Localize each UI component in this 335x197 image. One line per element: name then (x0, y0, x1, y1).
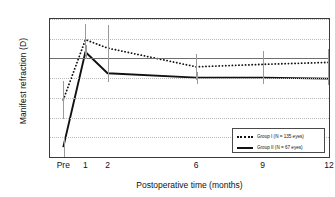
solid-line-marker-icon (237, 144, 253, 151)
error-bar (64, 137, 65, 157)
legend-label-group-2: Group II (N = 67 eyes) (257, 144, 303, 151)
legend-entry-group-1: Group I (N = 135 eyes) (237, 132, 321, 141)
legend-label-group-1: Group I (N = 135 eyes) (257, 133, 304, 140)
x-axis-tick-label: 2 (105, 160, 110, 170)
error-bar (263, 72, 264, 84)
legend-entry-group-2: Group II (N = 67 eyes) (237, 143, 321, 152)
x-axis-tick-label: Pre (57, 160, 70, 170)
chart-legend: Group I (N = 135 eyes) Group II (N = 67 … (232, 128, 325, 153)
error-bar (108, 64, 109, 82)
gridline (50, 39, 329, 40)
x-axis-tick-label: 9 (260, 160, 265, 170)
error-bar (328, 73, 329, 85)
error-bar (63, 81, 64, 118)
error-bar (86, 45, 87, 59)
y-axis-title: Manifest refraction (D) (18, 6, 28, 156)
error-bar (328, 49, 329, 76)
x-axis-tick-label: 6 (194, 160, 199, 170)
gridline (50, 98, 329, 99)
x-axis-tick-label: 1 (83, 160, 88, 170)
chart-figure: Manifest refraction (D) Postoperative ti… (0, 0, 335, 197)
zero-line (50, 58, 329, 59)
error-bar (197, 72, 198, 84)
gridline (50, 19, 329, 20)
dotted-line-marker-icon (237, 133, 253, 140)
x-axis-tick-label: 12 (324, 160, 333, 170)
gridline (50, 78, 329, 79)
x-axis-title: Postoperative time (months) (49, 180, 330, 190)
gridline (50, 118, 329, 119)
